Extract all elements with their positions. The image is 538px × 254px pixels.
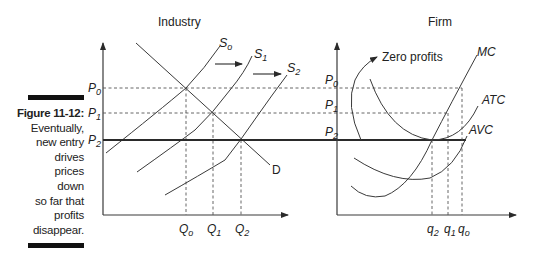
q0-label: Qo bbox=[179, 222, 193, 238]
firm-p1-label: P1 bbox=[325, 98, 338, 114]
atc-label: ATC bbox=[481, 93, 505, 107]
industry-title: Industry bbox=[158, 15, 201, 29]
firm-panel: Firm Zero profits MC ATC AVC P0 P1 P2 q2… bbox=[325, 15, 516, 238]
demand-label: D bbox=[272, 163, 281, 177]
mc-curve bbox=[351, 55, 477, 197]
mc-label: MC bbox=[477, 45, 496, 59]
q0-firm-label: qo bbox=[458, 222, 470, 238]
economics-diagram: Industry So S1 S2 D P0 P1 P2 Qo Q1 Q2 bbox=[0, 0, 538, 254]
q1-label: Q1 bbox=[207, 222, 221, 238]
industry-p1-label: P1 bbox=[88, 106, 101, 122]
s2-label: S2 bbox=[287, 61, 300, 77]
avc-label: AVC bbox=[468, 123, 493, 137]
firm-title: Firm bbox=[428, 15, 452, 29]
avc-curve bbox=[354, 136, 467, 179]
q2-firm-label: q2 bbox=[427, 222, 439, 238]
supply-curve-s0 bbox=[106, 46, 220, 153]
firm-p0-label: P0 bbox=[325, 73, 338, 89]
s1-label: S1 bbox=[254, 47, 267, 63]
firm-p2-label: P2 bbox=[325, 125, 338, 141]
industry-panel: Industry So S1 S2 D P0 P1 P2 Qo Q1 Q2 bbox=[88, 15, 462, 238]
industry-p2-label: P2 bbox=[88, 133, 101, 149]
q1-firm-label: q1 bbox=[444, 222, 456, 238]
q2-label: Q2 bbox=[235, 222, 249, 238]
supply-curve-s2 bbox=[165, 75, 287, 195]
zero-profits-label: Zero profits bbox=[382, 50, 443, 64]
zero-profits-arrow bbox=[351, 57, 377, 140]
industry-p0-label: P0 bbox=[88, 81, 101, 97]
s0-label: So bbox=[219, 36, 232, 52]
